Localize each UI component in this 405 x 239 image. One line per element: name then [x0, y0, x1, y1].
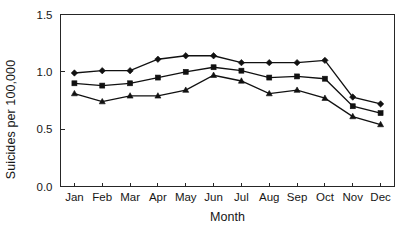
- series-square-point: [350, 104, 355, 109]
- x-axis-title: Month: [60, 210, 395, 224]
- series-square-point: [378, 111, 383, 116]
- series-diamond-point: [238, 59, 244, 65]
- series-diamond-point: [155, 56, 161, 62]
- series-square-point: [239, 68, 244, 73]
- series-triangle-point: [294, 87, 300, 92]
- y-tick-label: 0.0: [37, 181, 53, 193]
- x-tick-label: May: [175, 191, 197, 203]
- series-triangle-point: [71, 90, 77, 95]
- series-square-point: [128, 81, 133, 86]
- series-square-point: [295, 74, 300, 79]
- x-axis-tick-labels: JanFebMarAprMayJunJulAugSepOctNovDec: [65, 191, 391, 203]
- x-tick-label: Dec: [370, 191, 391, 203]
- y-tick-label: 0.5: [37, 123, 53, 135]
- series-diamond-point: [71, 70, 77, 76]
- x-tick-label: Aug: [259, 191, 279, 203]
- x-tick-label: Oct: [316, 191, 335, 203]
- x-tick-label: Jul: [234, 191, 249, 203]
- series-diamond-point: [183, 53, 189, 59]
- series-triangle-point: [350, 113, 356, 118]
- series-diamond-point: [210, 53, 216, 59]
- y-tick-label: 1.0: [37, 66, 53, 78]
- x-tick-label: Jan: [65, 191, 84, 203]
- series-square-point: [322, 76, 327, 81]
- series-triangle-point: [211, 72, 217, 77]
- series-diamond-point: [99, 67, 105, 73]
- line-chart-plot: 0.00.51.01.5 JanFebMarAprMayJunJulAugSep…: [0, 0, 405, 239]
- series-diamond-point: [377, 101, 383, 107]
- series-triangle: [71, 72, 383, 127]
- series-diamond-point: [266, 59, 272, 65]
- series-square-point: [100, 83, 105, 88]
- y-axis-title: Suicides per 100,000: [0, 0, 22, 239]
- chart-container: 0.00.51.01.5 JanFebMarAprMayJunJulAugSep…: [0, 0, 405, 239]
- x-tick-label: Jun: [204, 191, 223, 203]
- series-diamond-line: [74, 56, 380, 104]
- x-tick-label: Mar: [120, 191, 140, 203]
- series-square-point: [183, 69, 188, 74]
- y-axis-tick-labels: 0.00.51.01.5: [37, 9, 53, 193]
- series-square-point: [211, 65, 216, 70]
- series-square-point: [267, 75, 272, 80]
- series-triangle-line: [74, 75, 380, 124]
- x-tick-label: Sep: [287, 191, 307, 203]
- series-diamond-point: [127, 67, 133, 73]
- x-tick-label: Feb: [92, 191, 112, 203]
- x-tick-label: Apr: [149, 191, 167, 203]
- x-tick-label: Nov: [343, 191, 364, 203]
- series-square-point: [155, 75, 160, 80]
- y-tick-label: 1.5: [37, 9, 53, 21]
- series-square: [72, 65, 383, 116]
- series-square-point: [72, 81, 77, 86]
- chart-series: [71, 53, 384, 127]
- series-diamond-point: [294, 59, 300, 65]
